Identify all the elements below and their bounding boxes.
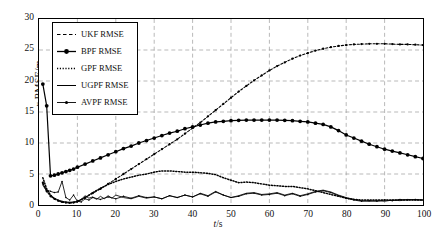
y-tick-label: 5 — [8, 169, 34, 179]
x-tick-label: 60 — [255, 209, 285, 219]
y-tick-label: 25 — [8, 43, 34, 53]
figure-chart-rmse: x RMSE/m 051015202530 010203040506070809… — [0, 0, 436, 238]
x-tick-label: 20 — [100, 209, 130, 219]
x-tick-label: 70 — [293, 209, 323, 219]
chart-legend: UKF RMSE BPF RMSE GPF RMSE UGPF RMSE AVP… — [52, 22, 138, 115]
y-tick-label: 15 — [8, 106, 34, 116]
y-tick-label: 30 — [8, 12, 34, 22]
legend-label-ugpf: UGPF RMSE — [81, 80, 129, 91]
legend-item-avpf: AVPF RMSE — [53, 94, 137, 111]
legend-item-ugpf: UGPF RMSE — [53, 77, 137, 94]
x-tick-label: 10 — [62, 209, 92, 219]
legend-swatch-dot-marker-icon — [56, 97, 78, 108]
legend-swatch-dashed-icon — [56, 29, 78, 40]
legend-item-ukf: UKF RMSE — [53, 26, 137, 43]
legend-swatch-circle-icon — [56, 46, 78, 57]
legend-swatch-dotted-icon — [56, 63, 78, 74]
x-tick-label: 30 — [139, 209, 169, 219]
x-tick-label: 40 — [177, 209, 207, 219]
x-tick-label: 50 — [216, 209, 246, 219]
x-axis-label: t/s — [0, 219, 436, 229]
legend-label-bpf: BPF RMSE — [81, 46, 122, 57]
x-axis-label-text: /s — [216, 219, 222, 229]
y-tick-label: 10 — [8, 137, 34, 147]
legend-label-ukf: UKF RMSE — [81, 29, 124, 40]
legend-item-bpf: BPF RMSE — [53, 43, 137, 60]
legend-label-avpf: AVPF RMSE — [81, 97, 127, 108]
y-tick-label: 20 — [8, 75, 34, 85]
legend-swatch-solid-icon — [56, 80, 78, 91]
x-tick-label: 90 — [370, 209, 400, 219]
x-tick-label: 0 — [23, 209, 53, 219]
legend-label-gpf: GPF RMSE — [81, 63, 122, 74]
legend-item-gpf: GPF RMSE — [53, 60, 137, 77]
x-tick-label: 80 — [332, 209, 362, 219]
x-tick-label: 100 — [409, 209, 436, 219]
